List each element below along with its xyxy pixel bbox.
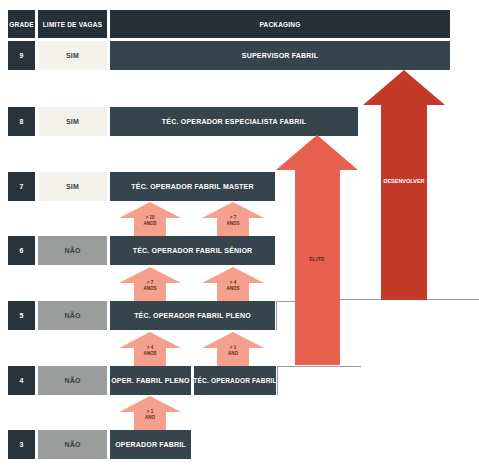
limit-grade-9: SIM xyxy=(38,41,107,70)
desenvolver-label: DESENVOLVER xyxy=(363,178,445,184)
limit-grade-3: NÃO xyxy=(38,430,107,459)
role-tec-operador-especialista-fabril: TÉC. OPERADOR ESPECIALISTA FABRIL xyxy=(110,107,358,136)
progression-label: > 1 ANO xyxy=(202,345,264,357)
limit-grade-4: NÃO xyxy=(38,366,107,395)
grade-9: 9 xyxy=(8,41,35,70)
progression-label: > 7 ANOS xyxy=(202,215,264,227)
progression-label: > 4 ANOS xyxy=(119,345,181,357)
progression-label: > 4 ANOS xyxy=(202,280,264,292)
role-operador-fabril: OPERADOR FABRIL xyxy=(110,430,191,459)
elite-arrow-icon xyxy=(276,135,358,365)
limit-grade-8: SIM xyxy=(38,107,107,136)
grade-8: 8 xyxy=(8,107,35,136)
role-tec-operador-fabril: TÉC. OPERADOR FABRIL xyxy=(194,366,276,395)
elite-label: ELITE xyxy=(276,256,358,262)
role-tec-operador-fabril-senior: TÉC. OPERADOR FABRIL SÊNIOR xyxy=(110,236,275,265)
header-packaging: PACKAGING xyxy=(110,10,450,38)
header-grade: GRADE xyxy=(8,10,35,38)
grade-4: 4 xyxy=(8,366,35,395)
role-tec-operador-fabril-pleno: TÉC. OPERADOR FABRIL PLENO xyxy=(110,301,275,330)
grade-6: 6 xyxy=(8,236,35,265)
grade-7: 7 xyxy=(8,172,35,201)
connector-line xyxy=(277,366,278,395)
desenvolver-arrow-icon xyxy=(363,70,445,300)
role-oper-fabril-pleno: OPER. FABRIL PLENO xyxy=(110,366,191,395)
role-tec-operador-fabril-master: TÉC. OPERADOR FABRIL MASTER xyxy=(110,172,275,201)
limit-grade-5: NÃO xyxy=(38,301,107,330)
progression-label: > 1 ANO xyxy=(119,409,181,421)
connector-line xyxy=(277,366,361,367)
limit-grade-6: NÃO xyxy=(38,236,107,265)
header-limit-de-vagas: LIMITE DE VAGAS xyxy=(38,10,107,38)
grade-5: 5 xyxy=(8,301,35,330)
progression-label: > 7 ANOS xyxy=(119,280,181,292)
role-supervisor-fabril: SUPERVISOR FABRIL xyxy=(110,41,450,70)
progression-label: > 10 ANOS xyxy=(119,215,181,227)
limit-grade-7: SIM xyxy=(38,172,107,201)
grade-3: 3 xyxy=(8,430,35,459)
